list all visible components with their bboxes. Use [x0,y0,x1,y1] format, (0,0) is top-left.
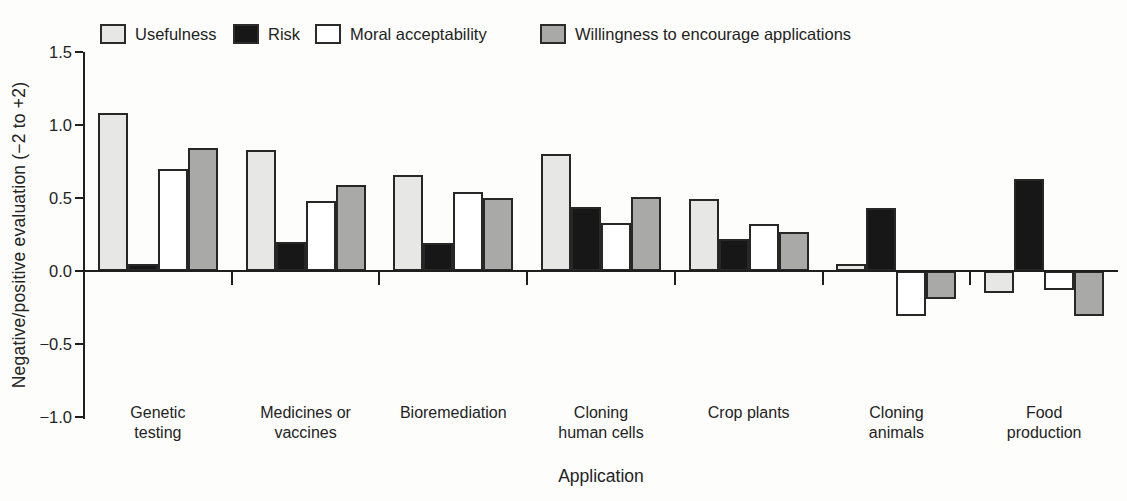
bar-cloning-animals-willingness-to-encourage-applications [926,271,956,299]
legend-swatch-risk [233,24,259,44]
legend-item-willingness-to-encourage-applications: Willingness to encourage applications [540,24,851,44]
y-tick-label: 0.0 [28,261,72,281]
category-label-food-production: Food production [970,403,1118,443]
bar-medicines-or-vaccines-moral-acceptability [306,201,336,271]
bar-bioremediation-moral-acceptability [453,192,483,271]
x-tick [526,270,528,285]
bar-medicines-or-vaccines-risk [276,242,306,271]
legend-label: Willingness to encourage applications [575,25,851,44]
bar-cloning-human-cells-usefulness [541,154,571,271]
y-tick [75,343,83,345]
x-tick [378,270,380,285]
y-tick-label: −1.0 [28,407,72,427]
y-axis-title: Negative/positive evaluation (−2 to +2) [9,25,31,445]
category-label-bioremediation: Bioremediation [379,403,527,423]
x-tick [969,270,971,285]
y-tick-label: 1.0 [28,115,72,135]
legend-swatch-usefulness [100,24,126,44]
legend-label: Risk [268,25,300,44]
bar-medicines-or-vaccines-willingness-to-encourage-applications [336,185,366,271]
bar-cloning-human-cells-moral-acceptability [601,223,631,271]
bar-crop-plants-willingness-to-encourage-applications [779,232,809,271]
x-tick [822,270,824,285]
bar-cloning-animals-moral-acceptability [896,271,926,316]
y-tick [75,124,83,126]
legend-label: Usefulness [135,25,217,44]
legend-item-risk: Risk [233,24,300,44]
category-label-genetic-testing: Genetic testing [84,403,232,443]
y-tick-label: 0.5 [28,188,72,208]
bar-crop-plants-usefulness [689,199,719,271]
bar-bioremediation-risk [423,243,453,271]
bar-food-production-risk [1014,179,1044,271]
y-tick [75,197,83,199]
bar-genetic-testing-moral-acceptability [158,169,188,271]
bar-genetic-testing-willingness-to-encourage-applications [188,148,218,271]
bar-medicines-or-vaccines-usefulness [246,150,276,271]
bar-chart-figure: Negative/positive evaluation (−2 to +2) … [0,0,1127,501]
category-label-cloning-human-cells: Cloning human cells [527,403,675,443]
x-tick [231,270,233,285]
y-tick [75,270,83,272]
y-tick [75,51,83,53]
legend-item-usefulness: Usefulness [100,24,217,44]
y-tick-label: −0.5 [28,334,72,354]
bar-cloning-human-cells-willingness-to-encourage-applications [631,197,661,271]
legend-swatch-moral-acceptability [315,24,341,44]
y-tick-label: 1.5 [28,42,72,62]
legend-item-moral-acceptability: Moral acceptability [315,24,487,44]
category-label-crop-plants: Crop plants [675,403,823,423]
bar-food-production-usefulness [984,271,1014,293]
bar-cloning-animals-risk [866,208,896,271]
x-axis-line [83,270,1118,272]
x-axis-title: Application [84,466,1118,487]
legend-label: Moral acceptability [350,25,487,44]
bar-crop-plants-risk [719,239,749,271]
bar-crop-plants-moral-acceptability [749,224,779,271]
bar-bioremediation-willingness-to-encourage-applications [483,198,513,271]
category-label-medicines-or-vaccines: Medicines or vaccines [232,403,380,443]
bar-bioremediation-usefulness [393,175,423,271]
bar-cloning-human-cells-risk [571,207,601,271]
x-tick [674,270,676,285]
bar-food-production-moral-acceptability [1044,271,1074,290]
bar-food-production-willingness-to-encourage-applications [1074,271,1104,316]
bar-genetic-testing-usefulness [98,113,128,271]
y-axis-line [83,52,85,419]
y-tick [75,416,83,418]
legend-swatch-willingness-to-encourage-applications [540,24,566,44]
category-label-cloning-animals: Cloning animals [823,403,971,443]
